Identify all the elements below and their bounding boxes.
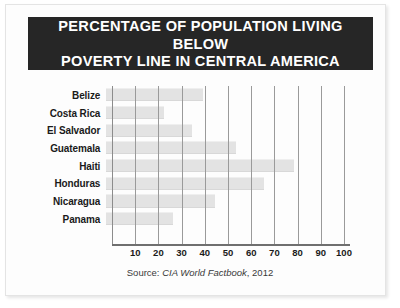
x-tick-label: 60	[246, 247, 257, 258]
bar-track	[106, 192, 338, 210]
bar-row: Nicaragua	[28, 192, 368, 210]
x-tick-label: 90	[316, 247, 327, 258]
bar-track	[106, 157, 338, 175]
source-publication: CIA World Factbook	[162, 267, 247, 278]
x-tick-label: 30	[176, 247, 187, 258]
chart-title-banner: PERCENTAGE OF POPULATION LIVING BELOW PO…	[28, 17, 373, 70]
bar-row: Guatemala	[28, 139, 368, 157]
bar-track	[106, 86, 338, 104]
x-tick-label: 10	[130, 247, 141, 258]
bar	[106, 106, 164, 119]
source-year: , 2012	[247, 267, 273, 278]
bar-track	[106, 139, 338, 157]
bar	[106, 88, 203, 101]
bar	[106, 212, 173, 225]
bar-track	[106, 104, 338, 122]
bar	[106, 141, 236, 154]
bar	[106, 159, 294, 172]
chart-page: PERCENTAGE OF POPULATION LIVING BELOW PO…	[0, 0, 400, 308]
bar-row: Panama	[28, 210, 368, 228]
bar-track	[106, 174, 338, 192]
x-tick-label: 70	[269, 247, 280, 258]
x-tick-label: 80	[292, 247, 303, 258]
x-tick-label: 50	[223, 247, 234, 258]
x-axis-tick-labels: 102030405060708090100	[112, 247, 344, 261]
bar	[106, 194, 215, 207]
bar-row: Belize	[28, 86, 368, 104]
bar-category-label: Nicaragua	[32, 195, 106, 207]
bar-track	[106, 121, 338, 139]
bar-category-label: Guatemala	[32, 142, 106, 154]
bar-rows: BelizeCosta RicaEl SalvadorGuatemalaHait…	[28, 86, 368, 228]
bar-category-label: Belize	[32, 89, 106, 101]
x-axis-line	[112, 244, 350, 246]
bar-row: Costa Rica	[28, 104, 368, 122]
bar-category-label: Honduras	[32, 177, 106, 189]
source-label: Source:	[127, 267, 162, 278]
bar-category-label: Panama	[32, 213, 106, 225]
bar-row: Haiti	[28, 157, 368, 175]
x-tick-label: 20	[153, 247, 164, 258]
bar-category-label: Haiti	[32, 160, 106, 172]
x-tick-label: 40	[200, 247, 211, 258]
page-title: PERCENTAGE OF POPULATION LIVING BELOW PO…	[38, 17, 362, 70]
bar-chart: BelizeCosta RicaEl SalvadorGuatemalaHait…	[28, 86, 368, 258]
bar-category-label: El Salvador	[32, 124, 106, 136]
bar-row: El Salvador	[28, 121, 368, 139]
bar	[106, 177, 264, 190]
bar-track	[106, 210, 338, 228]
bar	[106, 124, 192, 137]
bar-category-label: Costa Rica	[32, 107, 106, 119]
x-tick-label: 100	[336, 247, 352, 258]
bar-row: Honduras	[28, 174, 368, 192]
source-caption: Source: CIA World Factbook, 2012	[0, 267, 400, 278]
